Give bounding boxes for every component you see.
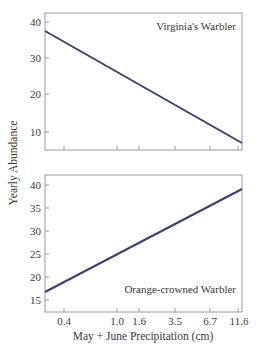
bottom-ytick-20: 20	[30, 271, 42, 283]
bottom-y-axis	[45, 185, 49, 300]
xtick-1.0: 1.0	[110, 315, 124, 327]
xtick-3.5: 3.5	[168, 315, 182, 327]
xtick-0.4: 0.4	[57, 315, 71, 327]
bottom-panel: 40 35 30 25 20 15 0.4 1.0 1.6 3.5 6.7 11…	[30, 175, 249, 327]
bottom-x-axis	[64, 308, 238, 312]
top-ytick-40: 40	[30, 16, 42, 28]
top-ytick-20: 20	[30, 88, 42, 100]
orange-crowned-warbler-line	[45, 189, 242, 292]
bottom-panel-title: Orange-crowned Warbler	[124, 283, 236, 295]
bottom-ytick-25: 25	[30, 248, 42, 260]
bottom-ytick-40: 40	[30, 179, 42, 191]
xtick-1.6: 1.6	[132, 315, 146, 327]
x-axis-label: May + June Precipitation (cm)	[73, 330, 214, 343]
top-plot-frame	[45, 13, 242, 150]
top-y-axis	[45, 22, 49, 132]
top-x-axis	[64, 146, 238, 150]
top-panel-title: Virginia's Warbler	[156, 20, 236, 32]
top-ytick-30: 30	[30, 52, 42, 64]
bottom-ytick-30: 30	[30, 225, 42, 237]
bottom-ytick-35: 35	[30, 202, 42, 214]
xtick-11.6: 11.6	[230, 315, 249, 327]
top-ytick-10: 10	[30, 126, 42, 138]
bottom-ytick-15: 15	[30, 294, 42, 306]
top-panel: 40 30 20 10 Virginia's Warbler	[30, 13, 242, 150]
warbler-figure: 40 30 20 10 Virginia's Warbler 40 35 30	[0, 0, 258, 355]
xtick-6.7: 6.7	[203, 315, 217, 327]
y-axis-label: Yearly Abundance	[7, 121, 20, 206]
virginias-warbler-line	[45, 31, 242, 143]
